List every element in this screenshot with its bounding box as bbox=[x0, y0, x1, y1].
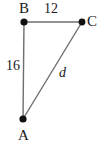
vertex-dot-c bbox=[79, 19, 86, 26]
side-length-label-bc: 12 bbox=[44, 2, 58, 16]
geometry-diagram: B C A 12 16 d bbox=[0, 0, 100, 146]
triangle-svg bbox=[0, 0, 100, 146]
vertex-dot-b bbox=[20, 18, 27, 25]
side-length-label-ab: 16 bbox=[6, 59, 20, 73]
side-length-label-ac: d bbox=[59, 66, 66, 80]
edge-ac-line bbox=[23, 22, 82, 119]
vertex-label-b: B bbox=[19, 1, 29, 16]
vertex-label-a: A bbox=[18, 128, 29, 143]
vertex-label-c: C bbox=[87, 14, 97, 29]
edge-ab-line bbox=[23, 22, 24, 119]
vertex-dot-a bbox=[19, 115, 26, 122]
